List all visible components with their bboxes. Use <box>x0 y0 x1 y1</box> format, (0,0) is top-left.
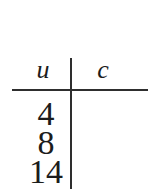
column-header-c: c <box>88 57 118 83</box>
column-divider-line <box>70 58 72 189</box>
header-rule-line <box>12 89 148 91</box>
column-header-u: u <box>28 57 58 83</box>
table-figure: u c 4 8 14 <box>0 0 148 189</box>
table-cell-u-row3: 14 <box>24 155 68 189</box>
